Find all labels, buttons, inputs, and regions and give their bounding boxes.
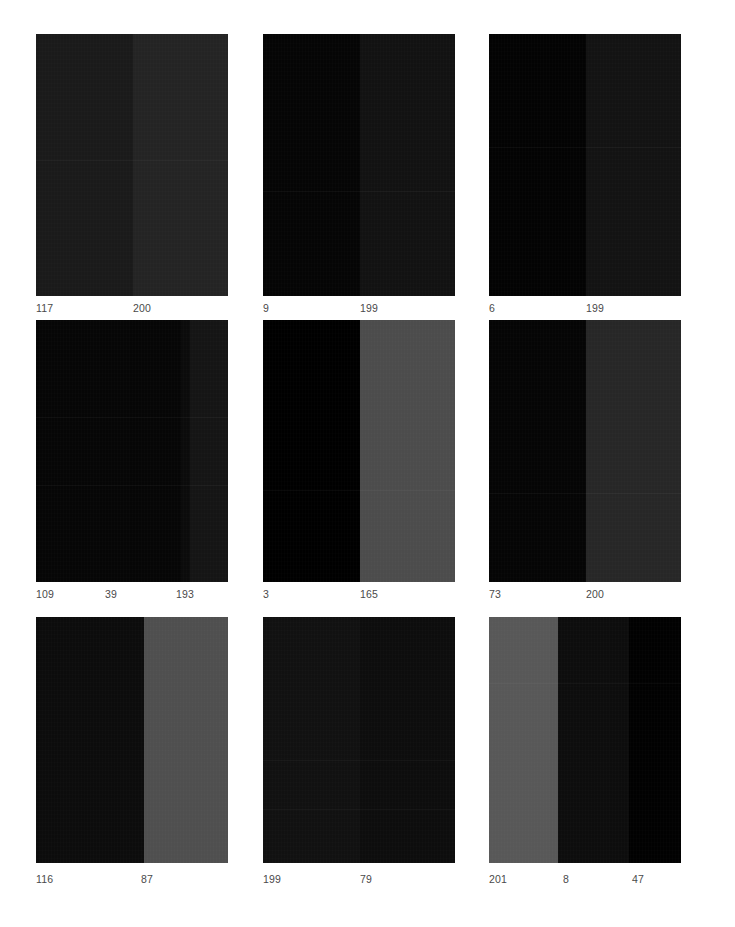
panel-7-band-1 xyxy=(36,617,144,863)
panel-9-label-3: 47 xyxy=(632,871,644,887)
image-panel-1[interactable] xyxy=(36,34,228,296)
panel-3-band-2 xyxy=(586,34,681,296)
panel-5-band-2 xyxy=(360,320,455,582)
panel-5-labels: 3 165 xyxy=(263,586,455,602)
panel-2-label-2: 199 xyxy=(360,300,378,316)
panel-9-label-2: 8 xyxy=(563,871,569,887)
image-panel-6[interactable] xyxy=(489,320,681,582)
panel-2-labels: 9 199 xyxy=(263,300,455,316)
panel-6-labels: 73 200 xyxy=(489,586,681,602)
panel-grid: 117 200 9 199 6 199 xyxy=(0,0,735,927)
panel-cell-4[interactable] xyxy=(36,320,228,582)
panel-6-band-2 xyxy=(586,320,681,582)
panel-7-label-2: 87 xyxy=(141,871,153,887)
panel-4-labels: 109 39 193 xyxy=(36,586,228,602)
panel-2-label-1: 9 xyxy=(263,300,269,316)
panel-cell-9[interactable] xyxy=(489,617,681,863)
image-panel-5[interactable] xyxy=(263,320,455,582)
panel-9-band-1 xyxy=(489,617,558,863)
panel-1-labels: 117 200 xyxy=(36,300,228,316)
panel-cell-3[interactable] xyxy=(489,34,681,296)
panel-cell-5[interactable] xyxy=(263,320,455,582)
panel-3-label-1: 6 xyxy=(489,300,495,316)
panel-cell-8[interactable] xyxy=(263,617,455,863)
panel-9-label-1: 201 xyxy=(489,871,507,887)
panel-6-label-2: 200 xyxy=(586,586,604,602)
panel-4-label-2: 39 xyxy=(105,586,117,602)
panel-3-labels: 6 199 xyxy=(489,300,681,316)
panel-7-label-1: 116 xyxy=(36,871,53,887)
image-panel-7[interactable] xyxy=(36,617,228,863)
panel-cell-1[interactable] xyxy=(36,34,228,296)
panel-7-band-2 xyxy=(144,617,228,863)
image-panel-8[interactable] xyxy=(263,617,455,863)
panel-5-band-1 xyxy=(263,320,360,582)
image-panel-2[interactable] xyxy=(263,34,455,296)
panel-6-band-1 xyxy=(489,320,586,582)
panel-cell-2[interactable] xyxy=(263,34,455,296)
panel-3-band-1 xyxy=(489,34,586,296)
panel-8-label-1: 199 xyxy=(263,871,281,887)
image-panel-4[interactable] xyxy=(36,320,228,582)
panel-5-label-2: 165 xyxy=(360,586,378,602)
panel-8-label-2: 79 xyxy=(360,871,372,887)
panel-8-band-1 xyxy=(263,617,360,863)
panel-6-label-1: 73 xyxy=(489,586,501,602)
panel-cell-6[interactable] xyxy=(489,320,681,582)
panel-3-label-2: 199 xyxy=(586,300,604,316)
panel-1-band-2 xyxy=(133,34,228,296)
panel-2-band-2 xyxy=(360,34,455,296)
image-panel-9[interactable] xyxy=(489,617,681,863)
panel-4-label-1: 109 xyxy=(36,586,54,602)
panel-4-band-2 xyxy=(181,320,190,582)
panel-9-labels: 201 8 47 xyxy=(489,871,681,887)
panel-cell-7[interactable] xyxy=(36,617,228,863)
panel-8-band-2 xyxy=(360,617,455,863)
panel-4-label-3: 193 xyxy=(176,586,194,602)
panel-9-band-3 xyxy=(629,617,681,863)
panel-2-band-1 xyxy=(263,34,360,296)
panel-7-labels: 116 87 xyxy=(36,871,228,887)
panel-5-label-1: 3 xyxy=(263,586,269,602)
panel-8-labels: 199 79 xyxy=(263,871,455,887)
panel-1-band-1 xyxy=(36,34,133,296)
image-panel-3[interactable] xyxy=(489,34,681,296)
panel-4-band-1 xyxy=(36,320,181,582)
page-canvas: 117 200 9 199 6 199 xyxy=(0,0,735,927)
panel-1-label-1: 117 xyxy=(36,300,53,316)
panel-4-band-3 xyxy=(190,320,228,582)
panel-1-label-2: 200 xyxy=(133,300,151,316)
panel-9-band-2 xyxy=(558,617,629,863)
